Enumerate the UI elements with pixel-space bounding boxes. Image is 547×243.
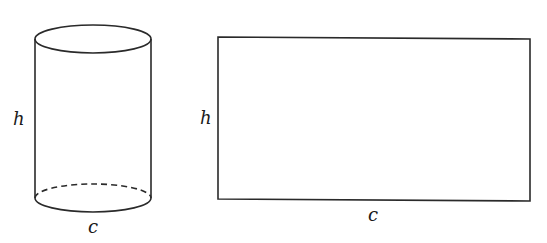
cylinder-circumference-label: c [88, 216, 98, 237]
cylinder-bottom-front-arc [35, 198, 151, 212]
rectangle-height-label: h [200, 107, 212, 128]
cylinder-height-label: h [13, 108, 25, 129]
rectangle-width-label: c [368, 204, 378, 225]
unrolled-rectangle [218, 37, 530, 201]
cylinder-figure [35, 25, 151, 212]
diagram-canvas: h c h c [0, 0, 547, 243]
rectangle-figure [218, 37, 530, 201]
cylinder-top-ellipse [35, 25, 151, 53]
cylinder-bottom-back-arc [35, 184, 151, 198]
